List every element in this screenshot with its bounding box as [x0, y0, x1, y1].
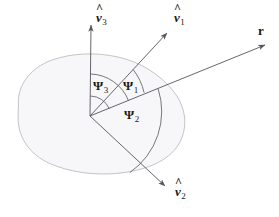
hat-accent-icon: ^ — [96, 2, 102, 14]
vector-label-v3-subscript: 3 — [102, 17, 107, 27]
vector-label-v1-subscript: 1 — [180, 17, 185, 27]
vector-label-r: r — [258, 24, 264, 37]
angle-label-psi3-subscript: 3 — [104, 85, 109, 95]
angle-label-psi3-symbol: Ψ — [93, 78, 103, 93]
angle-label-psi1-symbol: Ψ — [123, 78, 133, 93]
angle-label-psi1: Ψ1 — [123, 79, 138, 95]
vector-label-v2: ^ v 2 — [175, 185, 186, 201]
angle-label-psi2-subscript: 2 — [135, 114, 140, 124]
vector-label-v2-subscript: 2 — [181, 191, 186, 201]
hat-accent-icon: ^ — [175, 176, 181, 188]
angle-label-psi1-subscript: 1 — [134, 85, 139, 95]
angle-label-psi2-symbol: Ψ — [124, 107, 134, 122]
vector-label-v3: ^ v 3 — [96, 11, 107, 27]
angle-label-psi2: Ψ2 — [124, 108, 139, 124]
vector-angle-diagram: ^ v 3 ^ v 1 ^ v 2 r Ψ3 Ψ1 Ψ2 — [0, 0, 279, 217]
diagram-canvas — [0, 0, 279, 217]
body-blob — [18, 54, 185, 174]
vector-label-v1: ^ v 1 — [174, 11, 185, 27]
angle-label-psi3: Ψ3 — [93, 79, 108, 95]
hat-accent-icon: ^ — [174, 2, 180, 14]
